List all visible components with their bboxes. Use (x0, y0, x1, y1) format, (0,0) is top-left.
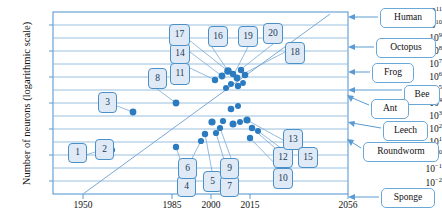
organism-label-sponge[interactable]: Sponge (381, 188, 435, 208)
organism-label-leech[interactable]: Leech (383, 121, 428, 141)
x-tick-label: 2015 (230, 200, 270, 210)
organism-label-ant[interactable]: Ant (371, 99, 409, 119)
data-label-box[interactable]: 2 (95, 139, 114, 160)
data-label-box[interactable]: 16 (208, 26, 228, 47)
data-label-box[interactable]: 3 (98, 92, 117, 113)
data-label-box[interactable]: 9 (220, 158, 239, 179)
data-label-box[interactable]: 17 (169, 24, 190, 46)
organism-label-human[interactable]: Human (380, 8, 436, 28)
x-tick-label: 2056 (328, 200, 368, 210)
data-label-box[interactable]: 14 (170, 43, 190, 64)
trend-line (83, 14, 330, 194)
data-label-box[interactable]: 1 (68, 143, 87, 163)
data-label-box[interactable]: 8 (148, 68, 167, 89)
data-label-box[interactable]: 18 (285, 42, 305, 64)
data-label-box[interactable]: 6 (178, 158, 197, 179)
data-label-box[interactable]: 10 (273, 168, 293, 189)
chart-figure: Number of neurons (logarithmic scale) 10… (0, 0, 442, 224)
organism-label-roundworm[interactable]: Roundworm (363, 142, 439, 162)
organism-label-octopus[interactable]: Octopus (376, 38, 436, 58)
data-label-box[interactable]: 15 (298, 147, 318, 168)
x-tick-label: 1950 (63, 200, 103, 210)
data-label-box[interactable]: 19 (238, 26, 258, 47)
data-label-box[interactable]: 20 (263, 23, 283, 44)
data-label-box[interactable]: 4 (177, 176, 196, 197)
data-label-box[interactable]: 11 (170, 63, 190, 85)
organism-label-frog[interactable]: Frog (372, 63, 414, 83)
organism-label-bee[interactable]: Bee (404, 85, 440, 105)
x-tick-label: 1985 (152, 200, 192, 210)
data-label-box[interactable]: 12 (273, 147, 293, 168)
data-label-box[interactable]: 7 (220, 176, 239, 197)
y-axis-ticks (49, 25, 53, 181)
x-tick-label: 2000 (191, 200, 231, 210)
x-axis-ticks (83, 194, 348, 199)
